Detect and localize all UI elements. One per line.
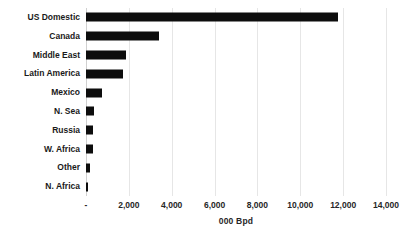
category-label: Other: [0, 158, 80, 177]
x-tick-label: 8,000: [247, 200, 268, 210]
bar-row: [86, 64, 386, 83]
bar-rows: [86, 8, 386, 196]
bar[interactable]: [86, 182, 88, 191]
category-label: Russia: [0, 121, 80, 140]
bar[interactable]: [86, 163, 90, 172]
bar-row: [86, 8, 386, 27]
category-axis-labels: US DomesticCanadaMiddle EastLatin Americ…: [0, 8, 80, 196]
category-label: N. Africa: [0, 177, 80, 196]
bar[interactable]: [86, 32, 159, 41]
bar-row: [86, 177, 386, 196]
bar-row: [86, 27, 386, 46]
x-axis-title: 000 Bpd: [86, 216, 386, 226]
bar-row: [86, 121, 386, 140]
bar-row: [86, 158, 386, 177]
x-tick-label: 6,000: [204, 200, 225, 210]
category-label: Canada: [0, 27, 80, 46]
bar[interactable]: [86, 144, 93, 153]
bar[interactable]: [86, 107, 94, 116]
bar[interactable]: [86, 126, 93, 135]
bar-row: [86, 83, 386, 102]
bar-row: [86, 46, 386, 65]
x-tick-label: 12,000: [330, 200, 356, 210]
category-label: Middle East: [0, 46, 80, 65]
x-tick-label: 10,000: [287, 200, 313, 210]
category-label: US Domestic: [0, 8, 80, 27]
bar-chart: US DomesticCanadaMiddle EastLatin Americ…: [0, 0, 417, 246]
x-tick-label: 2,000: [118, 200, 139, 210]
x-axis-tick-labels: -2,0004,0006,0008,00010,00012,00014,000: [86, 200, 386, 214]
bar[interactable]: [86, 13, 338, 22]
bar-row: [86, 102, 386, 121]
category-label: N. Sea: [0, 102, 80, 121]
bar-row: [86, 140, 386, 159]
x-tick-label: -: [85, 200, 88, 210]
bar[interactable]: [86, 88, 102, 97]
category-label: W. Africa: [0, 140, 80, 159]
bar[interactable]: [86, 69, 123, 78]
category-label: Mexico: [0, 83, 80, 102]
bar[interactable]: [86, 50, 126, 59]
gridline-14000: [386, 8, 387, 196]
x-tick-label: 4,000: [161, 200, 182, 210]
category-label: Latin America: [0, 64, 80, 83]
plot-area: [86, 8, 386, 196]
x-tick-label: 14,000: [373, 200, 399, 210]
